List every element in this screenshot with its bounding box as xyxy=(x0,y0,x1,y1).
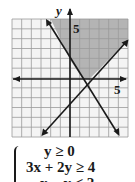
coordinate-graph: y 5 5 xyxy=(0,0,135,145)
y-axis-arrow-icon xyxy=(67,8,73,15)
inequality-2: 3x + 2y ≥ 4 xyxy=(22,159,132,175)
inequality-system: y ≥ 0 3x + 2y ≥ 4 x − y ≤ 2 xyxy=(22,143,132,182)
y-axis-label: y xyxy=(54,3,62,18)
inequality-1: y ≥ 0 xyxy=(22,143,132,159)
y-tick-label: 5 xyxy=(73,21,80,36)
x-tick-label: 5 xyxy=(114,82,121,97)
inequality-3: x − y ≤ 2 xyxy=(22,175,132,182)
system-brace xyxy=(14,146,22,182)
